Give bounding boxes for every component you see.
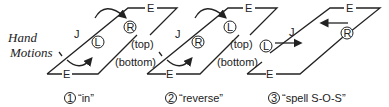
hand-motions-diagram: Hand Motions E E J (top) (bottom) L R 1 …	[0, 0, 389, 107]
panel-1-top-label: (top)	[131, 38, 154, 50]
panel-1-top-edge-e: E	[147, 2, 154, 14]
panel-3-left-hand-label: L	[263, 40, 269, 52]
panel-1-outline	[47, 8, 177, 74]
panel-2-top-edge-e: E	[245, 2, 252, 14]
panel-3-right-hand-label: R	[344, 27, 352, 39]
panel-1: E E J (top) (bottom) L R 1 “in”	[47, 2, 177, 104]
panel-1-edge-e: E	[63, 68, 70, 80]
panel-1-arrow-right	[95, 9, 125, 18]
panel-3-caption: “spell S-O-S”	[282, 92, 346, 104]
panel-2-tick	[159, 52, 162, 56]
panel-1-right-hand-label: R	[127, 21, 135, 33]
panel-2-arrow-left-hand	[195, 9, 225, 18]
panel-3-top-edge-e: E	[346, 2, 353, 14]
panel-2-edge-e: E	[166, 68, 173, 80]
panel-2-right-hand-label: R	[195, 36, 203, 48]
panel-2: E E J (top) (bottom) R L 2 “reverse”	[147, 2, 277, 104]
panel-2-edge-j: J	[175, 28, 181, 40]
panel-3-edge-j: J	[289, 26, 295, 38]
title-line-1: Hand	[7, 30, 37, 45]
panel-1-arrow-left	[67, 59, 91, 66]
panel-2-caption: “reverse”	[179, 92, 223, 104]
panel-2-arrow-right-hand	[167, 59, 191, 66]
panel-1-caption: “in”	[78, 92, 94, 104]
panel-2-left-hand-label: L	[227, 21, 233, 33]
panel-1-left-hand-label: L	[95, 36, 101, 48]
panel-1-edge-j: J	[74, 28, 80, 40]
panel-2-number: 2	[168, 92, 174, 104]
panel-1-number: 1	[67, 92, 73, 104]
panel-1-tick	[59, 52, 62, 56]
title-line-2: Motions	[9, 45, 53, 60]
panel-2-top-label: (top)	[230, 38, 253, 50]
panel-2-bottom-label: (bottom)	[217, 56, 258, 68]
panel-3-edge-e: E	[266, 68, 273, 80]
panel-3-number: 3	[271, 92, 277, 104]
panel-1-bottom-label: (bottom)	[115, 56, 156, 68]
